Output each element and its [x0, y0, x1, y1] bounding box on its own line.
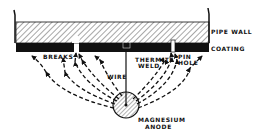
label-breaks: BREAKS	[43, 54, 74, 60]
thermite-weld	[123, 42, 130, 48]
coating-band-right	[79, 43, 209, 52]
pipe-left-edge	[14, 10, 15, 43]
pin-hole	[171, 40, 175, 52]
coating-band-left	[16, 43, 74, 52]
label-pipe-wall: PIPE WALL	[211, 29, 252, 35]
cathodic-protection-diagram	[0, 0, 258, 133]
pipe-wall	[16, 22, 209, 43]
anode-center	[125, 104, 128, 107]
label-anode: ANODE	[145, 124, 172, 130]
label-hole: HOLE	[178, 60, 198, 66]
label-coating: COATING	[211, 46, 245, 52]
label-wire: WIRE	[107, 74, 127, 80]
label-weld: WELD	[138, 63, 160, 69]
